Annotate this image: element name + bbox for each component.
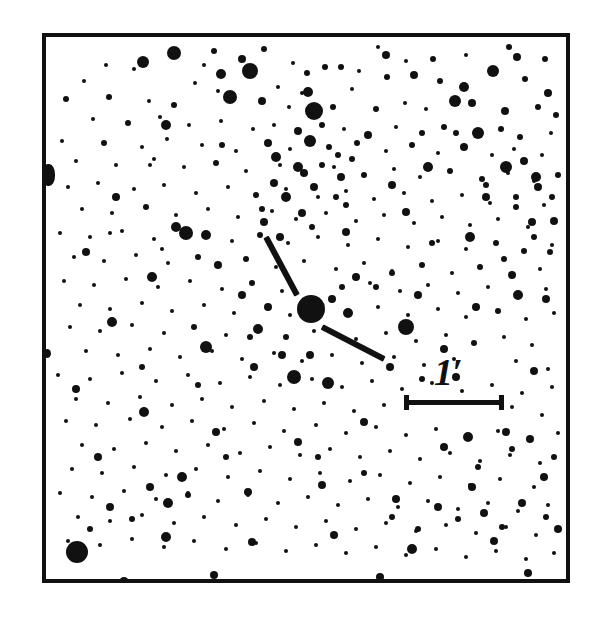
field-star: [72, 385, 80, 393]
field-star: [426, 283, 430, 287]
field-star: [546, 367, 550, 371]
field-star: [88, 377, 92, 381]
field-star: [88, 235, 92, 239]
field-star: [318, 471, 322, 475]
field-star: [309, 224, 315, 230]
field-star: [477, 264, 483, 270]
field-star: [534, 533, 538, 537]
field-star: [449, 95, 461, 107]
field-star: [464, 247, 468, 251]
field-star: [164, 473, 168, 477]
field-star: [276, 85, 280, 89]
field-star: [361, 470, 367, 476]
field-star: [218, 381, 222, 385]
field-star: [134, 253, 138, 257]
field-star: [398, 289, 402, 293]
field-star: [251, 127, 255, 131]
field-star: [382, 403, 386, 407]
field-star: [482, 193, 490, 201]
field-star: [434, 547, 438, 551]
field-star: [253, 324, 263, 334]
field-star: [288, 147, 292, 151]
field-star: [248, 538, 256, 546]
field-star: [185, 492, 191, 498]
field-star: [147, 99, 151, 103]
field-star: [419, 262, 425, 268]
field-star: [423, 162, 433, 172]
field-star: [386, 363, 394, 371]
field-star: [330, 531, 338, 539]
field-star: [384, 521, 388, 525]
scale-bar-label: 1′: [434, 353, 462, 391]
field-star: [464, 555, 468, 559]
field-star: [358, 455, 362, 459]
field-star: [424, 107, 428, 111]
field-star: [80, 443, 84, 447]
field-star: [453, 130, 459, 136]
field-star: [171, 222, 181, 232]
field-star: [248, 375, 252, 379]
field-star: [178, 355, 182, 359]
field-star: [400, 387, 404, 391]
field-star: [112, 193, 120, 201]
field-star: [483, 182, 489, 188]
field-star: [316, 195, 320, 199]
field-star: [404, 433, 408, 437]
field-star: [360, 418, 368, 426]
field-star: [508, 271, 516, 279]
field-star: [530, 367, 538, 375]
field-star: [474, 531, 478, 535]
field-star: [98, 329, 102, 333]
field-star: [234, 149, 238, 153]
field-star: [540, 413, 544, 417]
field-star: [66, 541, 88, 563]
field-star: [223, 90, 237, 104]
field-star: [354, 527, 358, 531]
field-star: [147, 272, 157, 282]
field-star: [191, 324, 197, 330]
field-star: [281, 192, 291, 202]
field-star: [362, 261, 366, 265]
field-star: [498, 477, 502, 481]
field-star: [430, 56, 436, 62]
field-star: [499, 524, 505, 530]
field-star: [490, 537, 498, 545]
field-star: [211, 48, 217, 54]
field-star: [520, 157, 528, 165]
field-star: [376, 305, 380, 309]
field-star: [374, 545, 378, 549]
field-star: [253, 192, 259, 198]
field-star: [132, 67, 136, 71]
field-star: [501, 107, 509, 115]
field-star: [124, 277, 128, 281]
field-star: [422, 363, 426, 367]
field-star: [108, 519, 112, 523]
field-star: [244, 488, 252, 496]
field-star: [376, 237, 380, 241]
scale-bar-line: [404, 400, 504, 405]
field-star: [294, 438, 302, 446]
field-star: [270, 209, 274, 213]
field-star: [303, 87, 313, 97]
field-star: [513, 53, 521, 61]
field-star: [282, 429, 286, 433]
field-star: [342, 228, 350, 236]
field-star: [480, 509, 488, 517]
field-star: [128, 417, 132, 421]
field-star: [306, 495, 310, 499]
field-star: [64, 419, 68, 423]
field-star: [468, 99, 476, 107]
field-star: [271, 152, 281, 162]
field-star: [472, 303, 480, 311]
field-star: [404, 59, 408, 63]
field-star: [206, 443, 210, 447]
field-star: [107, 317, 117, 327]
field-star: [170, 309, 174, 313]
field-star: [343, 308, 353, 318]
field-star: [129, 516, 135, 522]
field-star: [257, 232, 263, 238]
field-star: [230, 405, 234, 409]
field-star: [156, 285, 160, 289]
field-star: [455, 516, 461, 522]
field-star: [82, 248, 90, 256]
